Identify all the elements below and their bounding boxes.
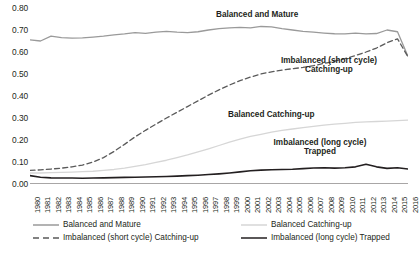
legend-label: Imbalanced (short cycle) Catching-up bbox=[63, 233, 199, 243]
legend-item[interactable]: Balanced and Mature bbox=[33, 220, 141, 230]
x-tick-label: 2008 bbox=[328, 197, 336, 213]
x-tick-label: 1986 bbox=[97, 197, 105, 213]
x-tick-label: 1995 bbox=[191, 197, 199, 213]
y-tick-label: 0.50 bbox=[0, 70, 28, 78]
x-tick-label: 1991 bbox=[149, 197, 157, 213]
x-tick-label: 1981 bbox=[44, 197, 52, 213]
x-tick-label: 1987 bbox=[107, 197, 115, 213]
x-tick-label: 1994 bbox=[181, 197, 189, 213]
legend-item[interactable]: Imbalanced (long cycle) Trapped bbox=[241, 233, 390, 243]
annotation-balanced-catching-up: Balanced Catching-up bbox=[228, 110, 314, 119]
legend-item[interactable]: Imbalanced (short cycle) Catching-up bbox=[33, 233, 199, 243]
x-tick-label: 2014 bbox=[391, 197, 399, 213]
x-tick-label: 2006 bbox=[307, 197, 315, 213]
legend-swatch bbox=[241, 220, 267, 230]
y-tick-label: 0.80 bbox=[0, 4, 28, 12]
x-tick-label: 2015 bbox=[401, 197, 409, 213]
y-tick-label: 0.10 bbox=[0, 158, 28, 166]
x-axis: 1980198119821983198419851986198719881989… bbox=[30, 186, 408, 216]
x-tick-label: 1990 bbox=[139, 197, 147, 213]
annotation-balanced-and-mature: Balanced and Mature bbox=[216, 10, 298, 19]
x-tick-label: 1992 bbox=[160, 197, 168, 213]
legend-label: Balanced and Mature bbox=[63, 220, 141, 230]
y-axis: 0.000.100.200.300.400.500.600.700.80 bbox=[0, 0, 28, 192]
x-tick-label: 1988 bbox=[118, 197, 126, 213]
legend-label: Balanced Catching-up bbox=[271, 220, 352, 230]
x-tick-label: 1998 bbox=[223, 197, 231, 213]
x-tick-label: 2005 bbox=[296, 197, 304, 213]
x-tick-label: 2012 bbox=[370, 197, 378, 213]
y-tick-label: 0.40 bbox=[0, 92, 28, 100]
plot-area bbox=[30, 8, 408, 184]
x-tick-label: 2002 bbox=[265, 197, 273, 213]
x-tick-label: 2010 bbox=[349, 197, 357, 213]
series-line bbox=[30, 26, 408, 56]
x-tick-label: 2009 bbox=[338, 197, 346, 213]
y-tick-label: 0.70 bbox=[0, 26, 28, 34]
x-tick-label: 2000 bbox=[244, 197, 252, 213]
legend-swatch bbox=[241, 233, 267, 243]
x-tick-label: 1996 bbox=[202, 197, 210, 213]
x-tick-label: 1999 bbox=[233, 197, 241, 213]
legend-item[interactable]: Balanced Catching-up bbox=[241, 220, 352, 230]
x-tick-label: 2003 bbox=[275, 197, 283, 213]
x-tick-label: 2007 bbox=[317, 197, 325, 213]
x-tick-label: 1984 bbox=[76, 197, 84, 213]
x-tick-label: 1993 bbox=[170, 197, 178, 213]
legend-label: Imbalanced (long cycle) Trapped bbox=[271, 233, 390, 243]
chart-legend: Balanced and MatureBalanced Catching-upI… bbox=[33, 220, 405, 248]
y-tick-label: 0.60 bbox=[0, 48, 28, 56]
annotation-imbalanced-short-cycle-catching-up: Imbalanced (short cycle) Catching-up bbox=[277, 56, 381, 75]
x-tick-label: 1997 bbox=[212, 197, 220, 213]
x-tick-label: 2004 bbox=[286, 197, 294, 213]
x-tick-label: 1989 bbox=[128, 197, 136, 213]
legend-swatch bbox=[33, 220, 59, 230]
annotation-imbalanced-long-cycle-trapped: Imbalanced (long cycle) Trapped bbox=[258, 138, 382, 157]
plot-svg bbox=[30, 8, 408, 184]
x-tick-label: 2011 bbox=[359, 197, 367, 213]
x-tick-label: 1980 bbox=[34, 197, 42, 213]
x-tick-label: 2016 bbox=[412, 197, 420, 213]
legend-swatch bbox=[33, 233, 59, 243]
x-tick-label: 1985 bbox=[86, 197, 94, 213]
y-tick-label: 0.30 bbox=[0, 114, 28, 122]
x-tick-label: 2001 bbox=[254, 197, 262, 213]
x-tick-label: 1983 bbox=[65, 197, 73, 213]
x-tick-label: 2013 bbox=[380, 197, 388, 213]
x-tick-label: 1982 bbox=[55, 197, 63, 213]
y-tick-label: 0.20 bbox=[0, 136, 28, 144]
y-tick-label: 0.00 bbox=[0, 180, 28, 188]
